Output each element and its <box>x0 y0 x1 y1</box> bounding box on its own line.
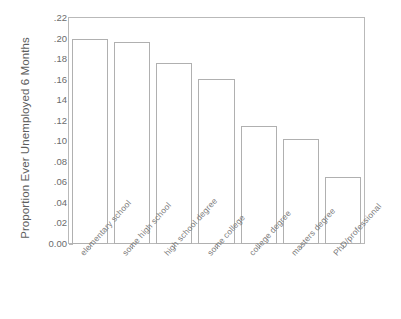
y-axis-tick-label: .02 <box>0 217 70 229</box>
y-axis-tick-label: .06 <box>0 176 70 188</box>
y-axis-tick-mark <box>69 244 73 245</box>
y-axis-tick-label: .10 <box>0 135 70 147</box>
y-axis-tick-label: .18 <box>0 53 70 65</box>
y-axis-tick-label: .22 <box>0 12 70 24</box>
y-axis-tick-label: .20 <box>0 33 70 45</box>
bar <box>72 39 108 244</box>
y-axis-tick-label: 0.00 <box>0 238 70 250</box>
y-axis-tick-label: 14 <box>0 94 70 106</box>
y-axis-tick-label: .08 <box>0 156 70 168</box>
bar-chart-figure: Proportion Ever Unemployed 6 Months 0.00… <box>0 0 401 319</box>
y-axis-tick-label: .12 <box>0 115 70 127</box>
y-axis-tick-label: .04 <box>0 197 70 209</box>
y-axis-tick-label-text: 0.00 <box>49 238 71 250</box>
y-axis-tick-label: .16 <box>0 74 70 86</box>
